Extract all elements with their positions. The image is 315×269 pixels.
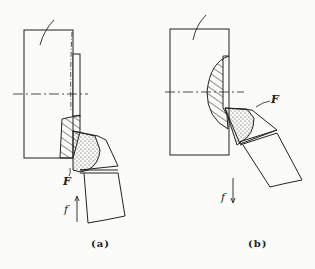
cutting-tool-figure: F f (a) F f (b): [0, 0, 315, 269]
panel-b: [165, 15, 302, 203]
caption-b: (b): [248, 238, 267, 249]
force-label-b: F: [271, 93, 279, 106]
caption-a: (a): [91, 238, 110, 249]
tool-insert-a: [73, 131, 100, 172]
figure-drawing: [0, 0, 315, 269]
machined-strip-a: [73, 54, 80, 116]
force-label-a: F: [63, 175, 71, 188]
feed-label-b: f: [221, 191, 225, 204]
feed-label-a: f: [64, 203, 68, 216]
panel-a: [13, 20, 125, 223]
tool-shank-a: [84, 173, 125, 223]
